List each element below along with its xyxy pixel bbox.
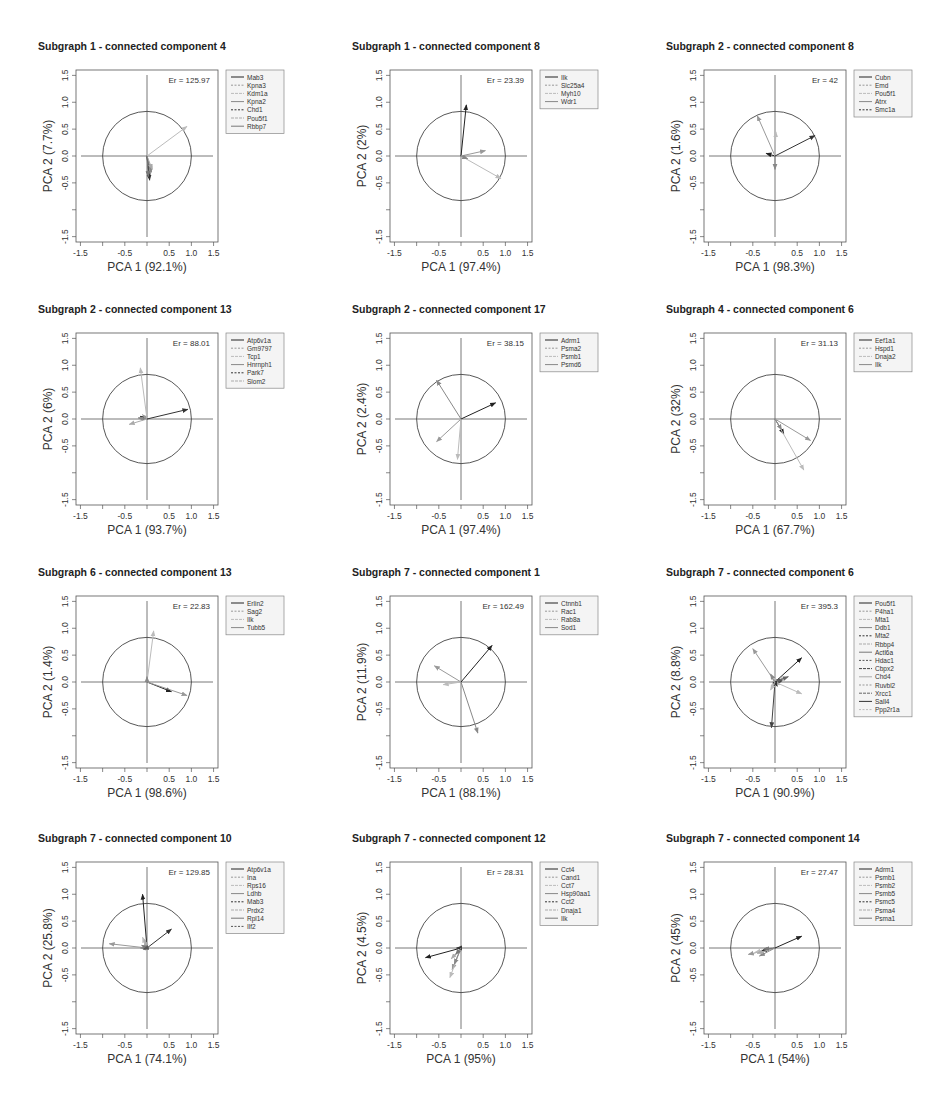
pca-plot: -1.5-0.50.51.01.5-1.5-0.50.00.51.01.5PCA… — [0, 822, 314, 1087]
loading-arrow — [437, 419, 461, 442]
x-tick-label: 1.0 — [813, 774, 825, 784]
legend-entry: Wdr1 — [561, 98, 577, 105]
x-axis-label: PCA 1 (98.6%) — [107, 786, 186, 800]
x-tick-label: 0.5 — [477, 511, 489, 521]
x-tick-label: -0.5 — [431, 511, 446, 521]
x-axis-label: PCA 1 (92.1%) — [107, 260, 186, 274]
y-tick-label: 0.0 — [374, 413, 384, 425]
loading-arrow — [129, 419, 147, 424]
legend-entry: Dnaja1 — [561, 907, 582, 915]
x-axis-label: PCA 1 (67.7%) — [735, 523, 814, 537]
pca-plot: -1.5-0.50.51.01.5-1.5-0.50.00.51.01.5PCA… — [0, 556, 314, 821]
x-tick-label: -1.5 — [387, 1040, 402, 1050]
y-tick-label: 0.5 — [688, 123, 698, 135]
y-tick-label: 1.5 — [374, 595, 384, 607]
y-tick-label: 0.5 — [688, 386, 698, 398]
legend-entry: Mab3 — [247, 74, 264, 81]
x-axis-label: PCA 1 (93.7%) — [107, 523, 186, 537]
x-tick-label: -1.5 — [73, 511, 88, 521]
y-tick-label: -0.5 — [60, 967, 70, 982]
x-tick-label: 1.0 — [185, 248, 197, 258]
pca-panel: Subgraph 6 - connected component 13-1.5-… — [0, 556, 314, 821]
y-tick-label: 1.0 — [374, 96, 384, 108]
pca-plot: -1.5-0.50.51.01.5-1.5-0.50.00.51.01.5PCA… — [628, 30, 942, 295]
y-tick-label: 0.0 — [688, 150, 698, 162]
loading-arrow — [457, 419, 461, 459]
legend-entry: Hdac1 — [875, 657, 894, 664]
legend-entry: Tubb5 — [247, 624, 266, 631]
loading-arrow — [426, 948, 462, 958]
pca-plot: -1.5-0.50.51.01.5-1.5-0.50.00.51.01.5PCA… — [628, 556, 942, 821]
legend-entry: Psmb5 — [875, 890, 896, 897]
x-tick-label: 1.0 — [499, 1040, 511, 1050]
x-tick-label: 1.0 — [813, 1040, 825, 1050]
y-tick-label: -0.5 — [374, 701, 384, 716]
legend-entry: Park7 — [247, 369, 264, 376]
y-tick-label: -1.5 — [374, 755, 384, 770]
x-tick-label: 1.0 — [499, 248, 511, 258]
pca-panel: Subgraph 7 - connected component 10-1.5-… — [0, 822, 314, 1087]
x-tick-label: 0.5 — [163, 1040, 175, 1050]
legend-entry: Mab3 — [247, 898, 264, 905]
loading-arrow — [461, 151, 485, 156]
legend-entry: Kdm1a — [247, 90, 268, 97]
y-tick-label: 1.5 — [374, 861, 384, 873]
y-axis-label: PCA 2 (25.8%) — [41, 908, 55, 987]
x-tick-label: 1.0 — [813, 248, 825, 258]
loading-arrow — [753, 649, 775, 682]
x-axis-label: PCA 1 (74.1%) — [107, 1052, 186, 1066]
x-tick-label: 1.5 — [836, 774, 848, 784]
x-tick-label: 1.5 — [522, 511, 534, 521]
legend-entry: Sall4 — [875, 698, 890, 705]
legend-entry: Chd4 — [875, 673, 891, 680]
x-tick-label: 1.5 — [208, 774, 220, 784]
y-tick-label: -1.5 — [374, 229, 384, 244]
x-axis-label: PCA 1 (97.4%) — [421, 260, 500, 274]
y-tick-label: 1.5 — [688, 861, 698, 873]
y-tick-label: -1.5 — [374, 1021, 384, 1036]
y-tick-label: 1.0 — [688, 96, 698, 108]
pca-plot: -1.5-0.50.51.01.5-1.5-0.50.00.51.01.5PCA… — [0, 293, 314, 558]
y-tick-label: 0.0 — [60, 413, 70, 425]
pca-panel: Subgraph 2 - connected component 17-1.5-… — [314, 293, 628, 558]
legend-entry: Ilk — [561, 915, 568, 922]
y-tick-label: 1.5 — [60, 595, 70, 607]
y-axis-label: PCA 2 (7.7%) — [41, 120, 55, 193]
y-tick-label: 1.5 — [374, 69, 384, 81]
legend-entry: Psmd6 — [561, 361, 582, 368]
y-tick-label: -1.5 — [60, 755, 70, 770]
legend-entry: Ruvbl2 — [875, 682, 896, 689]
y-tick-label: 0.0 — [60, 150, 70, 162]
legend-entry: Ilk — [561, 74, 568, 81]
loading-arrow — [775, 136, 815, 156]
x-tick-label: 0.5 — [791, 248, 803, 258]
legend-entry: Myh10 — [561, 90, 581, 98]
legend-entry: Sod1 — [561, 624, 577, 631]
x-tick-label: 1.5 — [522, 1040, 534, 1050]
x-tick-label: -0.5 — [117, 1040, 132, 1050]
x-tick-label: -0.5 — [745, 248, 760, 258]
pca-panel: Subgraph 7 - connected component 1-1.5-0… — [314, 556, 628, 821]
er-annotation: Er = 31.13 — [801, 339, 839, 348]
y-tick-label: -1.5 — [688, 229, 698, 244]
y-tick-label: 0.5 — [374, 649, 384, 661]
loading-arrow — [771, 682, 775, 728]
y-tick-label: 1.5 — [60, 332, 70, 344]
loading-arrow — [461, 156, 501, 179]
x-tick-label: 1.5 — [836, 248, 848, 258]
legend-entry: Rac1 — [561, 608, 577, 615]
x-tick-label: -1.5 — [73, 1040, 88, 1050]
legend-entry: Rab8a — [561, 616, 581, 623]
y-tick-label: 1.5 — [688, 69, 698, 81]
legend-entry: Emd — [875, 82, 889, 89]
x-tick-label: 0.5 — [163, 248, 175, 258]
x-tick-label: -1.5 — [73, 248, 88, 258]
x-tick-label: -0.5 — [431, 1040, 446, 1050]
er-annotation: Er = 88.01 — [173, 339, 211, 348]
y-tick-label: 1.0 — [688, 622, 698, 634]
y-tick-label: 0.5 — [60, 915, 70, 927]
y-tick-label: -0.5 — [60, 701, 70, 716]
x-tick-label: -1.5 — [701, 1040, 716, 1050]
legend-entry: Actl6a — [875, 649, 893, 656]
legend-entry: Slc25a4 — [561, 82, 585, 89]
